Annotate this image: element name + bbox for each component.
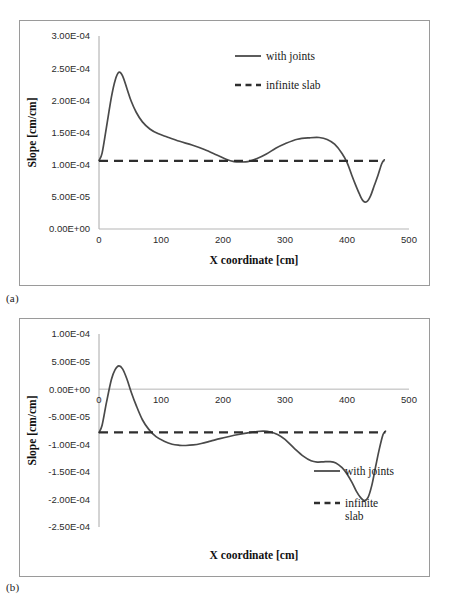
x-tick-label: 500	[401, 394, 417, 405]
y-tick-label: -1.50E-04	[48, 466, 90, 477]
x-axis-title: X coordinate [cm]	[210, 254, 299, 266]
x-tick-label: 300	[277, 394, 293, 405]
y-axis-title: Slope [cm/cm]	[26, 396, 39, 466]
y-tick-label: 1.00E-04	[51, 159, 90, 170]
y-axis-title: Slope [cm/cm]	[26, 98, 39, 168]
x-tick-label: 400	[339, 234, 355, 245]
y-tick-label: 1.50E-04	[51, 127, 90, 138]
y-tick-label: 5.00E-05	[51, 191, 90, 202]
x-tick-label: 200	[215, 234, 231, 245]
y-tick-label: -2.00E-04	[48, 494, 90, 505]
y-tick-label: -1.00E-04	[48, 439, 90, 450]
data-curve-with-joints	[99, 72, 384, 202]
x-tick-label: 400	[339, 394, 355, 405]
y-tick-label: -2.50E-04	[48, 521, 90, 532]
chart-a-svg: 0.00E+005.00E-051.00E-041.50E-042.00E-04…	[20, 21, 429, 285]
legend-entry: with joints	[235, 50, 315, 63]
subfigure-caption-a: (a)	[6, 292, 19, 304]
legend-entry: infiniteslab	[314, 497, 378, 522]
x-tick-label: 200	[215, 394, 231, 405]
legend-label: slab	[345, 510, 364, 522]
y-tick-label: 0.00E+00	[49, 384, 90, 395]
legend-entry: with joints	[314, 465, 394, 478]
x-tick-label: 100	[153, 394, 169, 405]
chart-b-svg: 1.00E-045.00E-050.00E+00-5.00E-05-1.00E-…	[20, 319, 429, 576]
legend-entry: infinite slab	[235, 79, 321, 91]
x-tick-label: 0	[96, 234, 101, 245]
y-tick-label: 5.00E-05	[51, 356, 90, 367]
x-tick-label: 100	[153, 234, 169, 245]
y-tick-label: 3.00E-04	[51, 30, 90, 41]
legend-label: infinite slab	[266, 79, 321, 91]
x-tick-label: 300	[277, 234, 293, 245]
x-tick-label: 0	[96, 394, 101, 405]
y-tick-label: 2.00E-04	[51, 95, 90, 106]
chart-panel-b: 1.00E-045.00E-050.00E+00-5.00E-05-1.00E-…	[19, 318, 430, 577]
chart-panel-a: 0.00E+005.00E-051.00E-041.50E-042.00E-04…	[19, 20, 430, 286]
legend-label: with joints	[266, 50, 315, 63]
y-tick-label: 2.50E-04	[51, 63, 90, 74]
legend-label: infinite	[345, 497, 378, 509]
x-axis-title: X coordinate [cm]	[210, 549, 299, 561]
x-tick-label: 500	[401, 234, 417, 245]
y-tick-label: 1.00E-04	[51, 328, 90, 339]
legend-label: with joints	[345, 465, 394, 478]
y-tick-label: 0.00E+00	[49, 223, 90, 234]
y-tick-label: -5.00E-05	[48, 411, 90, 422]
subfigure-caption-b: (b)	[6, 581, 19, 593]
